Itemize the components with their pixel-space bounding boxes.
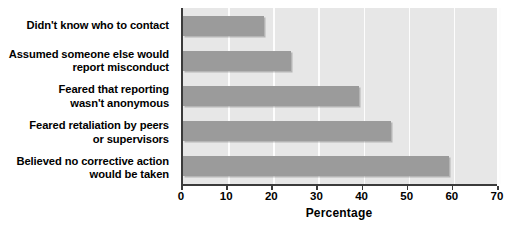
- tick-label: 10: [220, 190, 233, 202]
- bar: [183, 156, 449, 176]
- bar-chart-figure: Didn't know who to contact Assumed someo…: [0, 0, 506, 233]
- x-axis-tick-labels: 010203040506070: [181, 190, 497, 206]
- bar: [183, 121, 391, 141]
- tick-label: 60: [445, 190, 458, 202]
- bar: [183, 51, 291, 71]
- bar: [183, 16, 264, 36]
- bar: [183, 86, 359, 106]
- gridline: [499, 8, 501, 184]
- bar-series: [183, 8, 497, 184]
- bar-row: [183, 43, 497, 78]
- x-axis-title: Percentage: [181, 206, 497, 220]
- tick-label: 70: [491, 190, 504, 202]
- category-label: Believed no corrective action would be t…: [0, 150, 176, 186]
- tick-label: 50: [400, 190, 413, 202]
- category-label: Didn't know who to contact: [0, 8, 176, 44]
- category-label: Feared that reporting wasn't anonymous: [0, 79, 176, 115]
- bar-row: [183, 8, 497, 43]
- plot-area: [181, 8, 497, 186]
- tick-label: 0: [178, 190, 184, 202]
- category-label: Assumed someone else would report miscon…: [0, 44, 176, 80]
- tick-label: 40: [355, 190, 368, 202]
- bar-row: [183, 78, 497, 113]
- tick-label: 20: [265, 190, 278, 202]
- bar-row: [183, 114, 497, 149]
- bar-row: [183, 149, 497, 184]
- category-label-column: Didn't know who to contact Assumed someo…: [0, 8, 176, 186]
- category-label: Feared retaliation by peers or superviso…: [0, 115, 176, 151]
- tick-label: 30: [310, 190, 323, 202]
